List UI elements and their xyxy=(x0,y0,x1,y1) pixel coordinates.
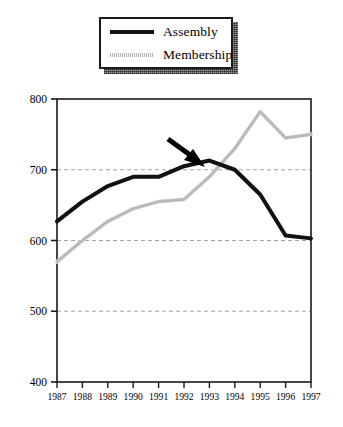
x-tick-label-1987: 1987 xyxy=(47,391,66,402)
x-tick-label-1989: 1989 xyxy=(98,391,117,402)
y-tick-label-800: 800 xyxy=(30,93,48,105)
y-tick-label-600: 600 xyxy=(30,235,48,247)
x-axis: 1987198819891990199119921993199419951996… xyxy=(47,382,320,402)
plot-area: 400500600700800 198719881989199019911992… xyxy=(0,0,343,427)
y-axis: 400500600700800 xyxy=(30,93,57,388)
x-tick-label-1993: 1993 xyxy=(200,391,219,402)
y-tick-label-400: 400 xyxy=(30,376,48,388)
x-tick-label-1992: 1992 xyxy=(174,391,193,402)
x-tick-label-1997: 1997 xyxy=(301,391,320,402)
series-path-membership xyxy=(57,112,311,262)
x-tick-label-1994: 1994 xyxy=(225,391,244,402)
x-tick-label-1996: 1996 xyxy=(276,391,295,402)
annotation-arrow-icon xyxy=(168,139,205,167)
y-tick-label-700: 700 xyxy=(30,164,48,176)
series-line-membership xyxy=(57,112,311,262)
x-tick-label-1991: 1991 xyxy=(149,391,168,402)
chart-figure: Assembly Membership 400500600700800 1987… xyxy=(0,0,343,427)
x-tick-label-1990: 1990 xyxy=(124,391,143,402)
y-tick-label-500: 500 xyxy=(30,305,48,317)
series-underlay-membership xyxy=(57,112,311,262)
x-tick-label-1988: 1988 xyxy=(73,391,92,402)
x-tick-label-1995: 1995 xyxy=(251,391,270,402)
gridlines xyxy=(57,170,311,312)
